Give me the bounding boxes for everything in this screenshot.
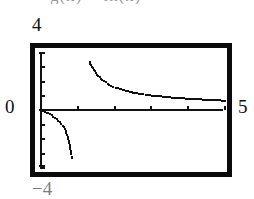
x-axis-tick (150, 106, 152, 110)
x-axis-tick (77, 106, 79, 110)
x-axis-tick (224, 106, 226, 110)
y-axis-tick (40, 124, 45, 126)
figure-screenshot: g(x) = ln(x) 4 0 5 −4 (0, 0, 254, 199)
curve-point (224, 100, 226, 102)
y-axis-tick (40, 167, 45, 169)
x-axis (39, 109, 223, 111)
y-axis-tick (40, 81, 45, 83)
y-axis-tick (40, 66, 45, 68)
formula-caption: g(x) = ln(x) (50, 0, 141, 4)
y-max-label: 4 (32, 15, 42, 34)
y-axis-tick (40, 52, 45, 54)
curve-point (71, 157, 73, 159)
x-axis-tick (187, 106, 189, 110)
x-max-label: 5 (238, 97, 248, 116)
x-axis-tick (114, 106, 116, 110)
y-axis-tick (40, 153, 45, 155)
calculator-screen-frame (30, 43, 232, 177)
plot-area (35, 48, 227, 172)
y-axis-tick (40, 138, 45, 140)
y-zero-label: 0 (5, 97, 15, 116)
y-axis-tick (40, 95, 45, 97)
formula-caption-strip: g(x) = ln(x) (0, 0, 254, 4)
y-min-label: −4 (32, 182, 52, 198)
y-min-label-strip: −4 (0, 182, 254, 199)
